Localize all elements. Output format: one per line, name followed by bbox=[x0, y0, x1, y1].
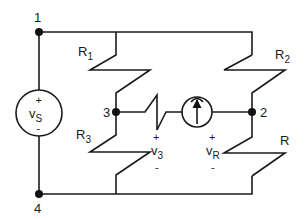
current-source bbox=[182, 97, 212, 127]
v3-label: v3 bbox=[151, 143, 164, 161]
vr-minus-sign: - bbox=[211, 161, 215, 173]
resistor-r2 bbox=[224, 55, 285, 112]
vs-plus-sign: + bbox=[36, 94, 42, 106]
v3-minus-sign: - bbox=[155, 161, 159, 173]
vs-minus-sign: - bbox=[37, 122, 41, 134]
resistor-r bbox=[224, 112, 285, 176]
node-4-dot bbox=[35, 190, 43, 198]
node-1-dot bbox=[35, 28, 43, 36]
node-2-dot bbox=[248, 108, 256, 116]
node-3-dot bbox=[112, 108, 120, 116]
node-2-label: 2 bbox=[260, 105, 267, 120]
v3-element bbox=[116, 95, 182, 130]
v3-plus-sign: + bbox=[153, 131, 159, 143]
node-4-label: 4 bbox=[34, 201, 41, 216]
r2-label: R2 bbox=[275, 47, 290, 65]
vr-label: vR bbox=[206, 143, 220, 161]
resistor-r3 bbox=[90, 112, 150, 194]
resistor-r1 bbox=[90, 32, 150, 112]
r3-label: R3 bbox=[76, 127, 91, 145]
vr-plus-sign: + bbox=[209, 131, 215, 143]
node-1-label: 1 bbox=[34, 10, 41, 25]
top-wire bbox=[39, 32, 252, 55]
bottom-wire bbox=[39, 176, 252, 194]
voltage-source-vs: + vS - bbox=[16, 90, 62, 136]
circuit-diagram: + vS - R1 R2 R3 R + v3 - + vR - 1 2 3 4 bbox=[0, 0, 308, 220]
node-3-label: 3 bbox=[103, 105, 110, 120]
r-label: R bbox=[280, 133, 289, 148]
r1-label: R1 bbox=[78, 44, 93, 62]
